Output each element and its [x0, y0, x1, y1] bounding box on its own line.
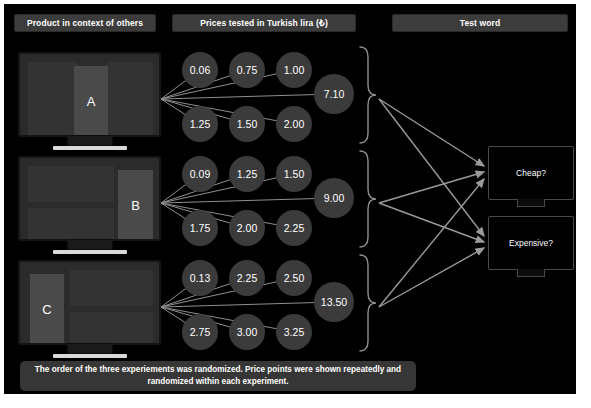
column-header-prices: Prices tested in Turkish lira (₺): [172, 14, 356, 32]
price-circle-highlight: 7.10: [314, 74, 354, 114]
price-circle-highlight: 13.50: [314, 282, 354, 322]
product-monitor-a: A: [18, 52, 161, 150]
context-block: [28, 208, 114, 241]
test-word-label: Expensive?: [488, 216, 574, 270]
price-circle: 2.00: [229, 210, 265, 246]
price-circle: 2.00: [276, 106, 312, 142]
product-monitor-b: B: [18, 156, 161, 254]
price-circle: 1.75: [182, 210, 218, 246]
monitor-stand: [67, 135, 113, 146]
product-swatch-b: B: [118, 170, 153, 240]
column-header-product: Product in context of others: [14, 14, 156, 32]
monitor-screen: A: [18, 52, 161, 137]
price-circle: 3.00: [229, 314, 265, 350]
price-circle: 0.13: [182, 260, 218, 296]
brace-c: [360, 255, 376, 351]
price-circle: 2.50: [276, 260, 312, 296]
product-monitor-c: C: [18, 260, 161, 358]
context-block: [106, 62, 153, 137]
monitor-screen: C: [18, 260, 161, 345]
group-braces: [360, 47, 376, 351]
price-circle-highlight: 9.00: [314, 178, 354, 218]
monitor-base: [53, 354, 127, 358]
context-block: [28, 166, 114, 202]
price-circle: 3.25: [276, 314, 312, 350]
brace-b: [360, 151, 376, 247]
caption-note: The order of the three experiements was …: [20, 361, 416, 391]
slide-canvas: Product in context of others Prices test…: [4, 4, 576, 394]
price-circle: 0.75: [229, 52, 265, 88]
test-word-label: Cheap?: [488, 146, 574, 200]
price-circle: 2.25: [229, 260, 265, 296]
price-circle: 1.50: [229, 106, 265, 142]
test-word-monitor-cheap: Cheap?: [488, 146, 574, 210]
column-header-test-word: Test word: [392, 14, 568, 32]
product-swatch-a: A: [74, 66, 108, 136]
monitor-base: [53, 250, 127, 254]
price-circle: 0.09: [182, 156, 218, 192]
price-circle: 1.25: [229, 156, 265, 192]
context-block: [70, 312, 153, 345]
brace-a: [360, 47, 376, 143]
context-block: [70, 270, 153, 306]
product-swatch-c: C: [30, 274, 64, 344]
price-circle: 1.00: [276, 52, 312, 88]
monitor-stand: [67, 239, 113, 250]
test-word-monitor-expensive: Expensive?: [488, 216, 574, 280]
monitor-base: [53, 146, 127, 150]
price-circle: 1.50: [276, 156, 312, 192]
monitor-stand: [67, 343, 113, 354]
monitor-stand: [517, 199, 545, 207]
price-circle: 0.06: [182, 52, 218, 88]
brace-arrows: [379, 99, 484, 307]
context-block: [28, 62, 78, 137]
monitor-screen: B: [18, 156, 161, 241]
price-circle: 2.75: [182, 314, 218, 350]
monitor-stand: [517, 269, 545, 277]
price-circle: 1.25: [182, 106, 218, 142]
price-circle: 2.25: [276, 210, 312, 246]
